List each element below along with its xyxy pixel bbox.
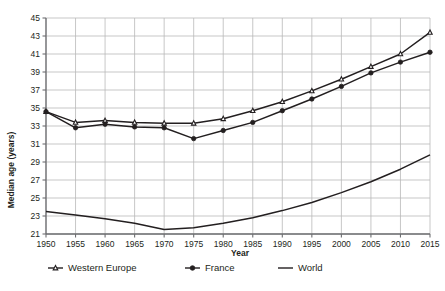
y-axis-tick-label: 27	[31, 175, 41, 185]
data-point-marker-circle	[251, 120, 255, 124]
x-axis-tick-label: 2005	[361, 239, 380, 249]
x-axis-tick-label: 1995	[302, 239, 321, 249]
x-axis-tick-label: 2015	[421, 239, 440, 249]
x-axis-tick-label: 1975	[184, 239, 203, 249]
chart-canvas: 21232527293133353739414345 1950195519601…	[0, 0, 445, 291]
y-axis-tick-label: 23	[31, 211, 41, 221]
x-axis-tick-label: 1965	[125, 239, 144, 249]
data-point-marker-circle	[280, 109, 284, 113]
data-point-marker-circle	[428, 50, 432, 54]
data-point-marker-circle	[369, 71, 373, 75]
x-axis-tick-label: 2000	[332, 239, 351, 249]
y-axis-tick-label: 39	[31, 67, 41, 77]
data-point-marker-circle	[162, 126, 166, 130]
data-point-marker-circle	[191, 136, 195, 140]
y-axis-tick-label: 29	[31, 157, 41, 167]
data-point-marker-circle	[44, 109, 48, 113]
data-point-marker-circle	[221, 128, 225, 132]
data-point-marker-circle	[310, 97, 314, 101]
x-axis-tick-label: 2010	[391, 239, 410, 249]
y-axis-tick-label: 33	[31, 121, 41, 131]
y-axis-tick-label: 45	[31, 13, 41, 23]
data-point-marker-circle	[103, 122, 107, 126]
y-axis-tick-label: 41	[31, 49, 41, 59]
y-axis-tick-label: 37	[31, 85, 41, 95]
y-axis-tick-label: 31	[31, 139, 41, 149]
x-axis-tick-label: 1960	[96, 239, 115, 249]
x-axis-tick-label: 1950	[37, 239, 56, 249]
x-axis-tick-label: 1990	[273, 239, 292, 249]
y-axis-tick-label: 25	[31, 193, 41, 203]
y-axis-title: Median age (years)	[6, 132, 16, 209]
x-axis-title: Year	[231, 248, 250, 258]
y-axis-tick-label: 35	[31, 103, 41, 113]
legend-label: World	[298, 262, 323, 273]
y-axis-tick-label: 21	[31, 229, 41, 239]
data-point-marker-circle	[132, 125, 136, 129]
legend-label: Western Europe	[68, 262, 136, 273]
data-point-marker-circle	[398, 60, 402, 64]
x-axis-tick-label: 1955	[66, 239, 85, 249]
legend-label: France	[205, 262, 235, 273]
data-point-marker-circle	[73, 126, 77, 130]
x-axis-tick-label: 1970	[155, 239, 174, 249]
y-axis-tick-label: 43	[31, 31, 41, 41]
data-point-marker-circle	[339, 84, 343, 88]
median-age-line-chart: 21232527293133353739414345 1950195519601…	[0, 0, 445, 291]
data-point-marker-circle	[190, 266, 195, 271]
